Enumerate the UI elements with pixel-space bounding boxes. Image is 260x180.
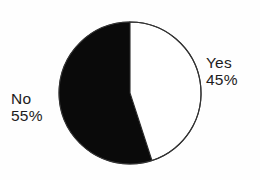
pie-chart: Yes 45% No 55% (0, 0, 260, 180)
pie-label-yes: Yes 45% (206, 54, 238, 88)
pie-label-no-name: No (11, 90, 43, 107)
pie-label-yes-name: Yes (206, 54, 238, 71)
pie-label-no-value: 55% (11, 107, 43, 124)
pie-label-yes-value: 45% (206, 71, 238, 88)
pie-label-no: No 55% (11, 90, 43, 124)
